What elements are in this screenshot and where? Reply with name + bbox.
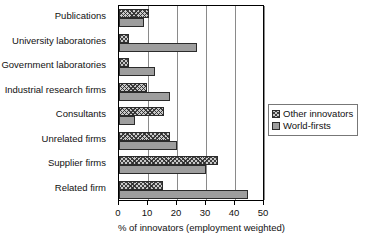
- x-axis-tick-labels: 01020304050: [0, 207, 370, 221]
- bar-other-innovators: [119, 9, 149, 18]
- y-axis-label: Publications: [55, 10, 106, 21]
- y-axis-label: Supplier firms: [48, 157, 106, 168]
- x-axis-ticks: [118, 201, 264, 206]
- legend-label-world-firsts: World-firsts: [283, 120, 331, 132]
- y-axis-label: Consultants: [56, 108, 106, 119]
- y-axis-category-labels: PublicationsUniversity laboratoriesGover…: [0, 4, 112, 200]
- legend-item-world-firsts: World-firsts: [272, 120, 353, 132]
- y-axis-label: University laboratories: [12, 35, 106, 46]
- bar-world-firsts: [119, 92, 170, 101]
- x-axis-tick: [147, 201, 148, 205]
- legend-label-other-innovators: Other innovators: [283, 108, 353, 120]
- bar-world-firsts: [119, 67, 155, 76]
- legend-swatch-world-firsts: [272, 122, 280, 130]
- legend-swatch-other-innovators: [272, 110, 280, 118]
- bar-world-firsts: [119, 116, 135, 125]
- bar-other-innovators: [119, 34, 129, 43]
- bar-chart: PublicationsUniversity laboratoriesGover…: [0, 0, 370, 251]
- bar-world-firsts: [119, 141, 177, 150]
- bar-other-innovators: [119, 181, 163, 190]
- bar-other-innovators: [119, 132, 170, 141]
- x-axis-tick: [234, 201, 235, 205]
- legend-item-other-innovators: Other innovators: [272, 108, 353, 120]
- x-axis-tick-label: 50: [258, 207, 269, 219]
- x-axis-tick-label: 20: [171, 207, 182, 219]
- chart-legend: Other innovators World-firsts: [268, 104, 358, 136]
- bar-other-innovators: [119, 58, 129, 67]
- x-axis-tick-label: 30: [200, 207, 211, 219]
- bar-other-innovators: [119, 83, 147, 92]
- x-axis-tick-label: 0: [115, 207, 120, 219]
- bar-world-firsts: [119, 18, 144, 27]
- y-axis-label: Unrelated firms: [42, 133, 106, 144]
- bar-other-innovators: [119, 107, 164, 116]
- x-axis-tick: [176, 201, 177, 205]
- bar-world-firsts: [119, 43, 197, 52]
- gridline: [206, 6, 207, 200]
- y-axis-label: Related firm: [55, 182, 106, 193]
- x-axis-tick-label: 10: [142, 207, 153, 219]
- x-axis-tick-label: 40: [229, 207, 240, 219]
- x-axis-title: % of innovators (employment weighted): [118, 222, 264, 234]
- x-axis-tick: [263, 201, 264, 205]
- bar-other-innovators: [119, 156, 218, 165]
- bar-world-firsts: [119, 190, 248, 199]
- y-axis-label: Industrial research firms: [5, 84, 106, 95]
- gridline: [235, 6, 236, 200]
- bar-world-firsts: [119, 165, 206, 174]
- x-axis-tick: [118, 201, 119, 205]
- gridline: [264, 6, 265, 200]
- x-axis-tick: [205, 201, 206, 205]
- plot-area: [118, 5, 264, 201]
- y-axis-label: Government laboratories: [1, 59, 106, 70]
